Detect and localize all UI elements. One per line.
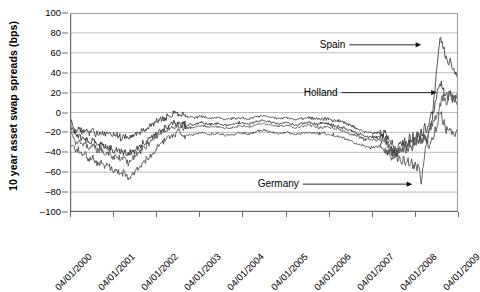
- y-axis-tick-label: –20: [45, 128, 61, 138]
- annotation-label-spain: Spain: [320, 40, 346, 50]
- y-axis-tick-label: 40: [50, 68, 61, 78]
- x-axis-tick-label: 04/01/2001: [96, 252, 136, 292]
- x-axis-tick-label: 04/01/2004: [226, 252, 266, 292]
- y-axis-tick-mark: [62, 172, 68, 173]
- y-axis-tick-mark: [62, 212, 68, 213]
- x-axis-tick-label: 04/01/2003: [183, 252, 223, 292]
- y-axis-tick-label: 100: [45, 8, 61, 18]
- x-axis-tick-label: 04/01/2009: [441, 252, 480, 292]
- y-axis-tick-mark: [62, 112, 68, 113]
- y-axis-tick-mark: [62, 92, 68, 93]
- x-axis-tick-labels: 04/01/200004/01/200104/01/200204/01/2003…: [0, 215, 480, 276]
- y-axis-tick-mark: [62, 32, 68, 33]
- annotation-label-holland: Holland: [304, 88, 338, 98]
- x-axis-tick-label: 04/01/2006: [312, 252, 352, 292]
- y-axis-title-text: 10 year asset swap spreads (bps): [7, 21, 19, 191]
- x-axis-tick-label: 04/01/2005: [269, 252, 309, 292]
- x-axis-tick-label: 04/01/2002: [140, 252, 180, 292]
- y-axis-tick-label: 20: [50, 88, 61, 98]
- x-axis-tick-label: 04/01/2000: [53, 252, 93, 292]
- y-axis-tick-label: –60: [45, 167, 61, 177]
- y-axis-ticks: 100806040200–20–40–60–80–100: [24, 13, 68, 212]
- x-axis-tick-label: 04/01/2008: [398, 252, 438, 292]
- y-axis-tick-label: –40: [45, 148, 61, 158]
- y-axis-tick-mark: [62, 152, 68, 153]
- y-axis-tick-label: 0: [56, 108, 61, 118]
- annotation-label-germany: Germany: [258, 179, 299, 189]
- y-axis-tick-mark: [62, 52, 68, 53]
- y-axis-tick-label: 80: [50, 28, 61, 38]
- y-axis-tick-mark: [62, 192, 68, 193]
- y-axis-tick-label: –80: [45, 187, 61, 197]
- y-axis-tick-mark: [62, 72, 68, 73]
- x-axis-tick-label: 04/01/2007: [355, 252, 395, 292]
- y-axis-tick-mark: [62, 132, 68, 133]
- y-axis-tick-mark: [62, 13, 68, 14]
- y-axis-tick-label: 60: [50, 48, 61, 58]
- y-axis-title: 10 year asset swap spreads (bps): [2, 0, 24, 212]
